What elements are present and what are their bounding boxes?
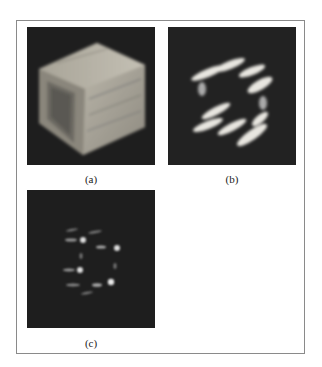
sparse-points-image [27,190,155,328]
caption-a: (a) [27,173,155,185]
caption-b: (b) [168,173,296,185]
panel-a-image [27,27,155,165]
panel-b-image [168,27,296,165]
caption-c: (c) [27,337,155,349]
streaked-blobs-image [168,27,296,165]
tube-rendering-image [27,27,155,165]
panel-c-image [27,190,155,328]
